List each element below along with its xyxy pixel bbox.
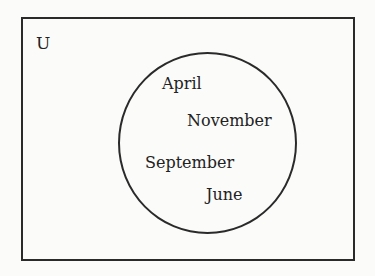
element-june: June <box>206 187 243 203</box>
element-april: April <box>162 76 202 92</box>
universe-label: U <box>36 33 50 53</box>
set-circle <box>118 52 297 234</box>
element-november: November <box>187 113 272 129</box>
element-september: September <box>145 155 234 171</box>
